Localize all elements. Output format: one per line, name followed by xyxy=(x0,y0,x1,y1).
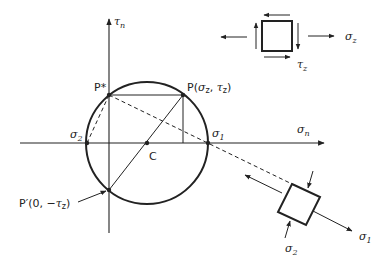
sigma2-point xyxy=(85,141,89,145)
mohr-circle-diagram: τn σn P* P(σz, τz) C σ1 σ2 P′(0, −τz) σz… xyxy=(0,0,386,262)
rotated-square xyxy=(278,184,320,225)
P-prime-pointer xyxy=(78,191,106,202)
sigma2-arrow-top xyxy=(308,171,313,188)
sigma2-arrow-bottom xyxy=(285,221,290,238)
P-prime-label: P′(0, −τz) xyxy=(19,197,70,211)
sigma1-axis-upper xyxy=(245,175,282,193)
P-prime-point xyxy=(107,188,111,192)
sigma2-label: σ2 xyxy=(70,128,83,143)
sigma-z-label: σz xyxy=(345,30,358,45)
center-point xyxy=(145,141,149,145)
tau-z-label: τz xyxy=(297,58,308,73)
sigma2-element-label: σ2 xyxy=(285,242,298,257)
stress-element-principal xyxy=(245,171,352,238)
sigma-n-label: σn xyxy=(297,123,310,138)
sigma1-element-label: σ1 xyxy=(359,230,372,245)
stress-element-original xyxy=(221,15,334,57)
element-square xyxy=(262,21,292,51)
tau-n-label: τn xyxy=(114,15,125,30)
P-label: P(σz, τz) xyxy=(187,81,231,95)
construction-lines xyxy=(78,95,292,202)
sigma1-axis-lower xyxy=(313,211,352,231)
center-label: C xyxy=(149,150,157,163)
pole-label: P* xyxy=(94,81,107,94)
sigma1-point xyxy=(206,141,210,145)
pole-point xyxy=(107,93,111,97)
sigma1-label: σ1 xyxy=(212,127,225,142)
P-point xyxy=(181,93,185,97)
